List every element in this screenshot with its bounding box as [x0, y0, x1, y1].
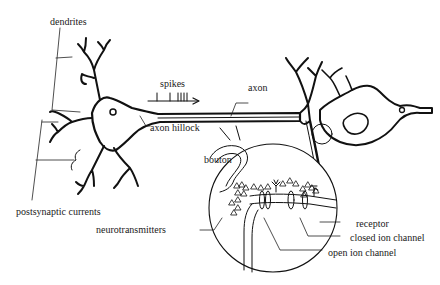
label-axon-hillock: axon hillock [150, 123, 200, 133]
label-neurotransmitters: neurotransmitters [96, 225, 166, 235]
label-dendrites: dendrites [50, 17, 87, 27]
label-spikes: spikes [160, 79, 185, 89]
label-receptor: receptor [356, 219, 389, 229]
label-bouton: bouton [204, 155, 232, 165]
nucleus [110, 109, 116, 115]
label-postsynaptic-currents: postsynaptic currents [16, 207, 101, 217]
label-axon: axon [248, 83, 267, 93]
label-closed-ion-channel: closed ion channel [350, 233, 424, 243]
label-open-ion-channel: open ion channel [328, 248, 396, 258]
spike-train [148, 93, 199, 104]
